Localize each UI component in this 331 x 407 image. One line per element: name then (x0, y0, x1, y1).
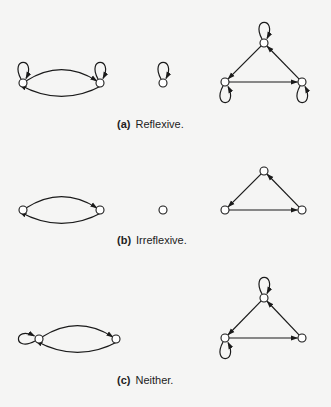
graph-node (221, 78, 229, 86)
caption-tag: (b) (117, 234, 131, 246)
edge-arrow (26, 197, 97, 208)
graph-node (96, 79, 104, 87)
edge-arrow (267, 46, 299, 79)
graph-node (298, 78, 306, 86)
caption-reflexive: (a)Reflexive. (117, 118, 184, 130)
graph-node (35, 335, 43, 343)
edge-arrow (36, 341, 119, 352)
graph-node (19, 79, 27, 87)
graph-node (260, 39, 268, 47)
graph-node (112, 335, 120, 343)
graph-node (96, 206, 104, 214)
graph-node (159, 206, 167, 214)
graph-node (159, 79, 167, 87)
loops-layer (18, 22, 308, 358)
caption-irreflexive: (b)Irreflexive. (117, 234, 187, 246)
caption-tag: (a) (117, 118, 130, 130)
edge-arrow (20, 85, 103, 96)
edge-arrow (228, 174, 261, 207)
graph-node (19, 206, 27, 214)
graph-node (260, 294, 268, 302)
self-loop-arrow (259, 22, 270, 39)
caption-tag: (c) (117, 374, 130, 386)
graph-node (221, 334, 229, 342)
graph-node (221, 206, 229, 214)
edge-arrow (42, 326, 113, 337)
nodes-layer (19, 39, 306, 343)
graph-node (260, 167, 268, 175)
edge-arrow (267, 174, 299, 207)
edge-arrow (267, 301, 299, 335)
relations-diagram (0, 0, 331, 407)
self-loop-arrow (259, 277, 270, 294)
caption-neither: (c)Neither. (117, 374, 173, 386)
self-loop-arrow (297, 86, 308, 103)
graph-node (298, 206, 306, 214)
edge-arrow (228, 46, 261, 79)
caption-text: Neither. (135, 374, 173, 386)
self-loop-arrow (220, 86, 231, 103)
caption-text: Irreflexive. (136, 234, 187, 246)
self-loop-arrow (95, 62, 106, 79)
edge-arrow (26, 70, 97, 81)
self-loop-arrow (18, 62, 29, 79)
edge-arrow (20, 212, 103, 223)
self-loop-arrow (18, 333, 35, 344)
self-loop-arrow (220, 342, 231, 359)
edges-layer (20, 46, 299, 353)
self-loop-arrow (158, 62, 169, 79)
edge-arrow (228, 301, 261, 335)
caption-text: Reflexive. (135, 118, 183, 130)
graph-node (298, 334, 306, 342)
